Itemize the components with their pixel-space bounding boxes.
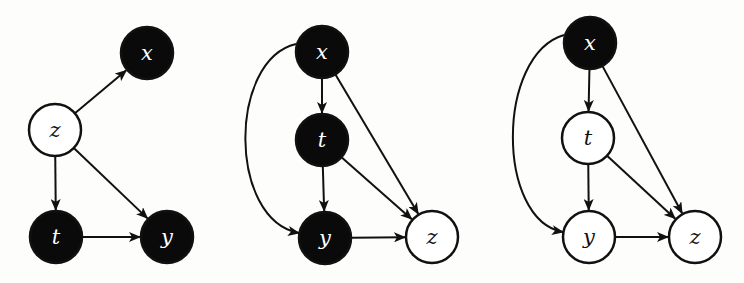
node-label: x [584,31,596,55]
node-t: t [562,112,614,164]
node-label: t [318,128,327,152]
node-t: t [30,211,82,263]
node-x: x [296,26,348,78]
edge-y-to-z [351,237,405,238]
edge-x-to-t [589,69,590,111]
node-label: z [425,225,438,249]
edge-z-to-t [55,156,56,210]
graph-1-edges [55,70,147,237]
node-t: t [296,114,348,166]
node-label: x [316,40,328,64]
edge-x-to-y [245,44,299,233]
node-y: y [141,211,193,263]
node-z: z [29,104,81,156]
causal-graphs-figure: xztyxtyzxtyz [0,0,744,283]
node-x: x [121,27,173,79]
node-label: t [52,225,61,249]
node-z: z [669,211,721,263]
edge-t-to-z [607,156,675,219]
edge-x-to-y [513,35,564,232]
node-label: y [318,226,332,250]
node-label: z [48,118,61,142]
diagram-svg: xztyxtyzxtyz [0,0,744,283]
edge-z-to-y [74,148,148,218]
node-label: t [584,126,593,150]
edge-t-to-y [323,166,324,211]
node-x: x [564,17,616,69]
node-label: z [688,225,701,249]
node-label: y [160,225,174,249]
node-label: x [141,41,153,65]
edge-t-to-z [342,157,412,219]
edge-z-to-x [75,70,126,113]
node-y: y [299,212,351,264]
node-y: y [563,211,615,263]
node-label: y [582,225,596,249]
graph-1-nodes: xzty [29,27,193,263]
node-z: z [406,211,458,263]
